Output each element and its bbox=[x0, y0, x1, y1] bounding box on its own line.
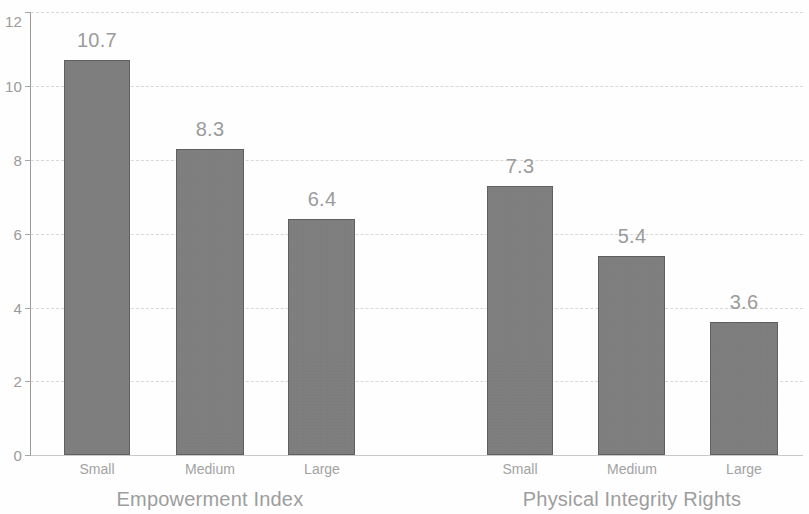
y-tick-label-10: 10 bbox=[0, 79, 22, 94]
value-label-empowerment-medium: 8.3 bbox=[150, 119, 270, 139]
value-label-physical-large: 3.6 bbox=[684, 292, 804, 312]
group-title-physical-integrity-rights: Physical Integrity Rights bbox=[452, 489, 809, 509]
y-tick-mark-12 bbox=[25, 12, 31, 13]
category-label-physical-small: Small bbox=[460, 462, 580, 476]
bar-physical-large[interactable] bbox=[710, 322, 778, 455]
y-tick-mark-4 bbox=[25, 308, 31, 309]
gridline-12 bbox=[31, 12, 803, 14]
bar-empowerment-small[interactable] bbox=[64, 60, 130, 455]
y-tick-label-0: 0 bbox=[0, 448, 22, 463]
category-label-empowerment-medium: Medium bbox=[150, 462, 270, 476]
y-tick-mark-10 bbox=[25, 86, 31, 87]
value-label-physical-medium: 5.4 bbox=[572, 226, 692, 246]
category-label-empowerment-large: Large bbox=[262, 462, 382, 476]
bar-empowerment-medium[interactable] bbox=[176, 149, 244, 455]
gridline-10 bbox=[31, 86, 803, 88]
category-label-physical-large: Large bbox=[684, 462, 804, 476]
value-label-empowerment-large: 6.4 bbox=[262, 189, 382, 209]
y-tick-mark-2 bbox=[25, 381, 31, 382]
y-tick-label-12: 12 bbox=[0, 14, 22, 29]
category-label-physical-medium: Medium bbox=[572, 462, 692, 476]
y-tick-mark-6 bbox=[25, 234, 31, 235]
bar-physical-medium[interactable] bbox=[598, 256, 665, 455]
value-label-empowerment-small: 10.7 bbox=[37, 30, 157, 50]
category-label-empowerment-small: Small bbox=[37, 462, 157, 476]
bar-physical-small[interactable] bbox=[487, 186, 553, 455]
y-tick-label-6: 6 bbox=[0, 227, 22, 242]
x-axis-line bbox=[31, 455, 803, 456]
bar-chart: 12 10 8 6 4 2 0 10.7 8.3 6.4 7.3 5.4 3.6… bbox=[0, 0, 809, 514]
value-label-physical-small: 7.3 bbox=[460, 156, 580, 176]
y-tick-mark-8 bbox=[25, 160, 31, 161]
y-tick-label-2: 2 bbox=[0, 374, 22, 389]
y-tick-label-8: 8 bbox=[0, 153, 22, 168]
y-tick-label-4: 4 bbox=[0, 301, 22, 316]
bar-empowerment-large[interactable] bbox=[288, 219, 355, 455]
gridline-2 bbox=[31, 381, 803, 383]
y-tick-mark-0 bbox=[25, 455, 31, 456]
gridline-8 bbox=[31, 160, 803, 162]
group-title-empowerment-index: Empowerment Index bbox=[30, 489, 390, 509]
